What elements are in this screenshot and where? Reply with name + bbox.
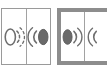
sound-arc-inner (93, 31, 96, 42)
sound-arc-outer (88, 28, 92, 46)
sound-arc-inner (74, 31, 77, 42)
speaker-waves-partial-icon (85, 21, 108, 53)
speaker-body-outline (5, 28, 15, 44)
volume-partial-button[interactable] (84, 12, 108, 61)
sound-arc-outer (28, 27, 32, 45)
sound-arc-inner-dashed (17, 31, 20, 43)
sound-arc-outer-dashed (20, 27, 24, 45)
speaker-body-filled (63, 29, 72, 44)
speaker-body-filled (38, 29, 47, 44)
volume-right-button[interactable] (61, 12, 84, 61)
volume-left-button[interactable] (26, 9, 51, 64)
sound-arc-outer (78, 28, 82, 46)
audio-panel-unselected[interactable] (1, 8, 51, 65)
sound-arc-inner (33, 31, 36, 43)
screen-root (0, 0, 107, 73)
speaker-muted-icon (2, 21, 26, 53)
mute-button[interactable] (2, 9, 26, 64)
audio-panel-selected[interactable] (57, 8, 107, 65)
speaker-waves-left-icon (27, 21, 51, 53)
speaker-waves-right-icon (61, 21, 84, 53)
